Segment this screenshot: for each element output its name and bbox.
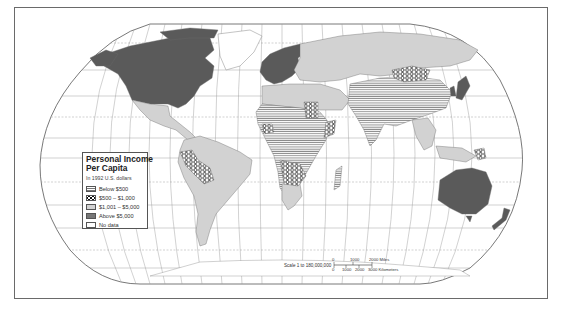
horizontal-lines-swatch-icon <box>86 186 96 192</box>
map-legend: Personal Income Per Capita In 1992 U.S. … <box>82 152 148 229</box>
legend-title-line2: Per Capita <box>86 164 144 173</box>
white-swatch-icon <box>86 222 96 228</box>
scale-km-3000: 3000 Kilometers <box>368 267 398 272</box>
legend-item-500-1000: $500 – $1,000 <box>86 193 144 202</box>
legend-item-no-data: No data <box>86 221 144 230</box>
scale-km-0: 0 <box>332 267 334 272</box>
dark-gray-swatch-icon <box>86 213 96 219</box>
scale-text: Scale 1 to 180,000,000 <box>284 263 331 268</box>
legend-item-below-500: Below $500 <box>86 184 144 193</box>
light-gray-swatch-icon <box>86 204 96 210</box>
scale-bar: 0 1000 2000 Miles 0 1000 2000 3000 Kilom… <box>332 258 398 272</box>
hexagon-dots-swatch-icon <box>86 195 96 201</box>
scale-km-2000: 2000 <box>355 267 364 272</box>
legend-item-above-5000: Above $5,000 <box>86 212 144 221</box>
legend-subtitle: In 1992 U.S. dollars <box>86 175 144 181</box>
scale-miles-1000: 1000 <box>350 257 359 262</box>
scale-miles-2000: 2000 Miles <box>369 257 389 262</box>
region-egypt <box>304 102 318 118</box>
legend-item-1001-5000: $1,001 – $5,000 <box>86 202 144 211</box>
scale-miles-0: 0 <box>332 257 334 262</box>
scale-km-1000: 1000 <box>342 267 351 272</box>
